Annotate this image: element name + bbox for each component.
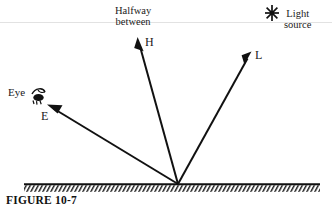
vector-l-arrow (178, 52, 252, 185)
vector-h-label: H (145, 36, 154, 48)
figure-caption: FIGURE 10-7 (6, 194, 77, 206)
figure-10-7: Halfway between Light source Eye H L E F… (0, 0, 332, 211)
vector-l-label: L (255, 49, 262, 61)
light-source-label: Light source (284, 9, 311, 30)
star-burst-icon (265, 5, 279, 21)
halfway-between-label: Halfway between (115, 6, 151, 27)
light-label-line2: source (284, 20, 311, 31)
surface-ground (24, 184, 320, 192)
vector-e-label: E (41, 110, 48, 122)
halfway-label-line2: between (115, 17, 151, 28)
vector-diagram-canvas (0, 0, 332, 211)
eye-sketch-icon (32, 89, 45, 105)
eye-label: Eye (8, 87, 25, 98)
